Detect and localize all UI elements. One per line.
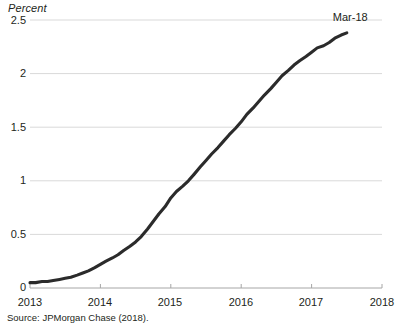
x-axis-tick-marks	[30, 284, 382, 288]
gridlines	[30, 20, 382, 234]
data-series-line	[30, 33, 347, 283]
endpoint-annotation-label: Mar-18	[333, 11, 368, 23]
plot-area	[0, 0, 404, 331]
chart-container: Percent 2.5 2 1.5 1 0.5 0 2013 2014 2015…	[0, 0, 404, 331]
source-note: Source: JPMorgan Chase (2018).	[7, 312, 149, 323]
